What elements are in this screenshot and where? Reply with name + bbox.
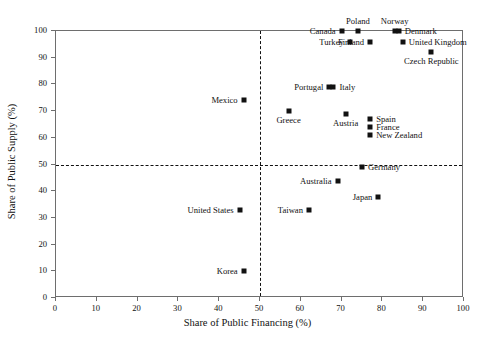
y-tick [51,83,55,84]
y-axis-title: Share of Public Supply (%) [6,82,17,242]
data-point-label: Taiwan [278,205,303,214]
data-point [368,133,373,138]
data-point-label: Czech Republic [404,57,459,66]
x-tick [96,297,97,301]
y-tick [51,164,55,165]
y-tick [51,57,55,58]
y-tick-label: 30 [13,212,47,222]
x-tick [259,297,260,301]
y-tick-label: 40 [13,185,47,195]
scatter-chart-figure: PolandNorwayCanadaDenmarkFinlandUnited K… [0,0,495,349]
y-tick-label: 100 [13,25,47,35]
y-tick [51,270,55,271]
x-axis-title: Share of Public Financing (%) [0,317,495,328]
data-point [343,111,348,116]
y-tick-label: 0 [13,292,47,302]
data-point [400,39,405,44]
data-point [347,39,352,44]
x-tick-label: 10 [92,303,101,313]
x-tick-label: 50 [255,303,264,313]
x-tick [55,297,56,301]
x-tick [177,297,178,301]
y-tick-label: 80 [13,78,47,88]
data-point [368,39,373,44]
y-tick [51,297,55,298]
data-point [237,207,242,212]
x-tick-label: 90 [418,303,427,313]
data-point [306,207,311,212]
x-tick [341,297,342,301]
data-point-label: Japan [353,192,373,201]
data-point [360,165,365,170]
data-point [429,50,434,55]
data-point-label: Denmark [405,27,437,36]
data-point-label: Mexico [211,96,237,105]
data-point-label: Canada [310,27,336,36]
data-point [331,85,336,90]
data-point [396,29,401,34]
data-point-label: Germany [368,163,400,172]
y-tick [51,217,55,218]
y-tick [51,190,55,191]
data-point-label: New Zealand [376,131,422,140]
x-tick [300,297,301,301]
data-point-label: Australia [300,176,332,185]
data-point-label: Greece [276,116,300,125]
data-point-label: Poland [346,17,370,26]
data-point [355,29,360,34]
data-point-label: United States [188,205,234,214]
data-point [376,194,381,199]
x-tick [422,297,423,301]
x-tick-label: 80 [377,303,386,313]
x-tick-label: 20 [132,303,141,313]
x-tick [137,297,138,301]
x-tick-label: 0 [53,303,57,313]
y-tick [51,244,55,245]
data-point [335,178,340,183]
x-tick-label: 40 [214,303,223,313]
x-tick [463,297,464,301]
data-point [368,117,373,122]
y-tick [51,30,55,31]
data-point-label: Portugal [294,83,323,92]
data-point [339,29,344,34]
x-tick-label: 100 [457,303,470,313]
data-point-label: Korea [217,267,238,276]
data-point-label: Italy [339,83,355,92]
data-point [286,109,291,114]
x-tick [381,297,382,301]
x-tick-label: 30 [173,303,182,313]
data-point-label: United Kingdom [409,37,467,46]
y-tick-label: 10 [13,265,47,275]
x-tick [218,297,219,301]
data-point [241,269,246,274]
y-tick-label: 90 [13,52,47,62]
data-point-label: Turkey [319,37,344,46]
y-tick [51,110,55,111]
data-point [368,125,373,130]
plot-area: PolandNorwayCanadaDenmarkFinlandUnited K… [55,30,463,297]
y-tick [51,137,55,138]
x-tick-label: 60 [296,303,305,313]
data-point-label: Austria [333,119,358,128]
reference-line-x50 [260,31,261,296]
data-point [241,98,246,103]
reference-line-y50 [56,165,462,166]
y-tick-label: 50 [13,159,47,169]
y-tick-label: 70 [13,105,47,115]
y-tick-label: 60 [13,132,47,142]
x-tick-label: 70 [336,303,345,313]
y-tick-label: 20 [13,239,47,249]
